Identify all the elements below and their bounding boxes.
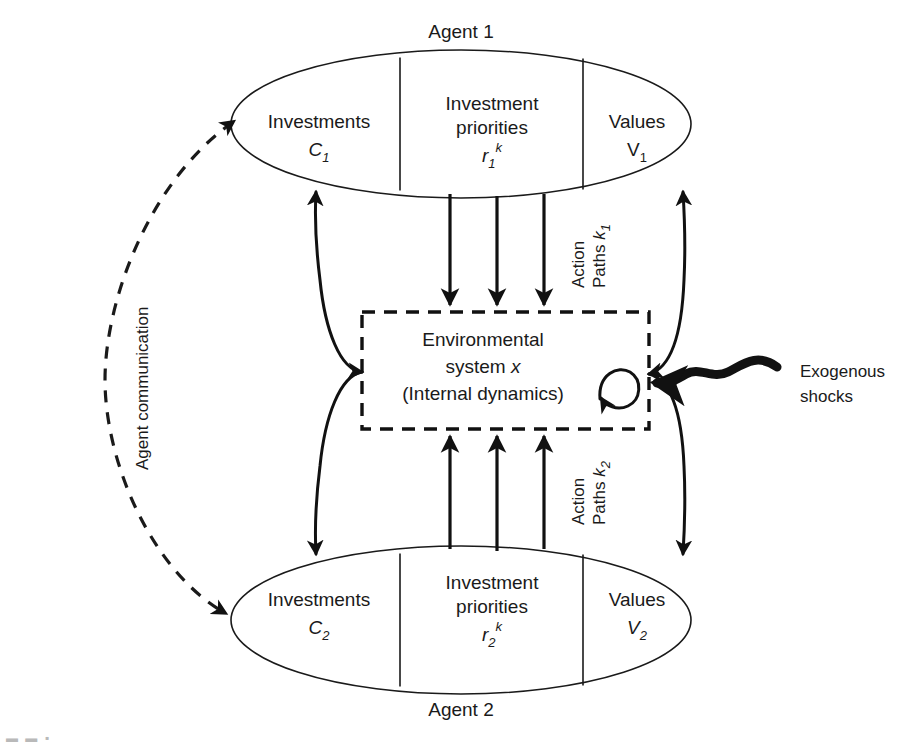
agent-bottom-ellipse[interactable] xyxy=(231,546,691,694)
agent-bottom-values-symbol: V2 xyxy=(627,617,648,643)
agent-communication-label-group: Agent communication xyxy=(133,307,152,470)
feedback-curve-bottom-left[interactable] xyxy=(315,372,362,554)
caption-fragment: ▬ ▬ ▪ xyxy=(6,731,51,745)
agent-bottom-title: Agent 2 xyxy=(428,699,494,720)
agent-bottom-investments-label: Investments xyxy=(268,589,370,610)
agent-top-priorities-label-1: Investment xyxy=(446,93,540,114)
agent-top-investments-label: Investments xyxy=(268,111,370,132)
diagram-svg: Agent 1 Investments C1 Investment priori… xyxy=(0,0,924,747)
agent-top-values-symbol: V1 xyxy=(627,139,647,165)
action-paths-bottom-arrows xyxy=(450,436,544,551)
exogenous-shocks-group[interactable]: Exogenous shocks xyxy=(657,360,885,406)
agent-top-group[interactable]: Agent 1 Investments C1 Investment priori… xyxy=(231,21,691,198)
internal-dynamics-loop-icon xyxy=(600,370,639,408)
action-paths-bottom-line1: Action xyxy=(569,478,588,525)
action-paths-top-arrows xyxy=(450,194,544,305)
feedback-curve-bottom-right[interactable] xyxy=(649,374,685,554)
environment-line-3: (Internal dynamics) xyxy=(402,383,564,404)
agent-communication-label: Agent communication xyxy=(133,307,152,470)
exogenous-shocks-arrow[interactable] xyxy=(657,360,777,383)
action-paths-bottom-label: Action Paths k2 xyxy=(569,460,613,525)
environment-line-2: system x xyxy=(446,356,522,377)
exogenous-shocks-label-1: Exogenous xyxy=(800,362,885,381)
agent-top-investments-symbol: C1 xyxy=(309,139,330,165)
agent-bottom-priorities-label-1: Investment xyxy=(446,572,540,593)
agent-top-priorities-label-2: priorities xyxy=(456,117,528,138)
environment-line-1: Environmental xyxy=(422,329,543,350)
action-paths-top-label: Action Paths k1 xyxy=(569,224,613,288)
agent-bottom-investments-symbol: C2 xyxy=(309,617,331,643)
feedback-curve-top-right[interactable] xyxy=(649,192,685,374)
agent-bottom-group[interactable]: Agent 2 Investments C2 Investment priori… xyxy=(231,546,691,720)
environment-group[interactable]: Environmental system x (Internal dynamic… xyxy=(362,312,649,429)
agent-top-priorities-symbol: r1k xyxy=(482,140,504,171)
exogenous-shocks-label-2: shocks xyxy=(800,387,853,406)
agent-bottom-values-label: Values xyxy=(609,589,666,610)
agent-bottom-priorities-label-2: priorities xyxy=(456,596,528,617)
action-paths-bottom-line2: Paths k2 xyxy=(590,460,613,525)
action-paths-top-line1: Action xyxy=(569,241,588,288)
agent-top-title: Agent 1 xyxy=(428,21,494,42)
agent-top-values-label: Values xyxy=(609,111,666,132)
action-paths-top-line2: Paths k1 xyxy=(590,224,613,288)
agent-communication-arrow[interactable] xyxy=(105,122,233,613)
agent-communication-group[interactable]: Agent communication xyxy=(105,122,233,613)
feedback-curve-top-left[interactable] xyxy=(315,192,362,372)
agent-bottom-priorities-symbol: r2k xyxy=(482,619,504,650)
figure-canvas: Agent 1 Investments C1 Investment priori… xyxy=(0,0,924,747)
